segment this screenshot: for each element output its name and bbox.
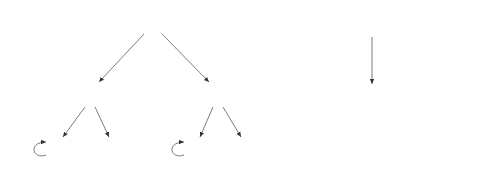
edge-q-r2 xyxy=(162,34,209,82)
self-loop-s1 xyxy=(34,142,46,156)
left-tree-edges xyxy=(34,34,241,156)
edge-r1-s2 xyxy=(95,107,109,137)
markov-diagram xyxy=(0,0,478,173)
edge-r2-s3 xyxy=(200,107,213,137)
edge-r1-s1 xyxy=(63,107,85,137)
edge-q-r1 xyxy=(99,34,144,82)
edge-r2-s4 xyxy=(223,107,241,137)
self-loop-s3 xyxy=(172,142,184,156)
